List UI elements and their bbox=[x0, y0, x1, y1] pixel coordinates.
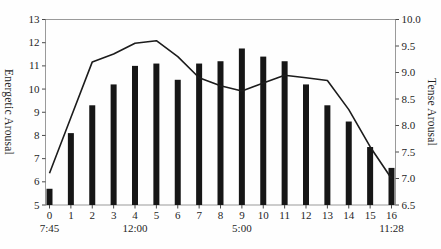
right-axis-tick-label: 10.0 bbox=[402, 13, 422, 25]
x-axis-tick-label: 3 bbox=[111, 209, 117, 221]
x-axis-tick-label: 8 bbox=[218, 209, 224, 221]
energetic-arousal-bar bbox=[175, 80, 181, 205]
left-axis-tick-label: 7 bbox=[34, 152, 40, 164]
x-axis-time-label: 7:45 bbox=[40, 222, 60, 234]
right-axis-tick-label: 7.5 bbox=[402, 146, 416, 158]
energetic-arousal-bar bbox=[89, 105, 95, 205]
left-axis-tick-label: 10 bbox=[29, 83, 41, 95]
x-axis-time-label: 12:00 bbox=[122, 222, 148, 234]
arousal-chart: 56789101112136.57.07.58.08.59.09.510.001… bbox=[0, 0, 441, 249]
right-axis-tick-label: 9.5 bbox=[402, 40, 416, 52]
energetic-arousal-bar bbox=[346, 122, 352, 205]
x-axis-tick-label: 2 bbox=[90, 209, 96, 221]
chart-plot-area: 56789101112136.57.07.58.08.59.09.510.001… bbox=[0, 0, 441, 249]
x-axis-tick-label: 12 bbox=[301, 209, 312, 221]
x-axis-tick-label: 16 bbox=[386, 209, 398, 221]
x-axis-tick-label: 0 bbox=[47, 209, 53, 221]
energetic-arousal-bar bbox=[324, 105, 330, 205]
left-axis-tick-label: 13 bbox=[29, 13, 41, 25]
energetic-arousal-bar bbox=[303, 84, 309, 205]
x-axis-tick-label: 9 bbox=[239, 209, 245, 221]
x-axis-tick-label: 15 bbox=[365, 209, 377, 221]
left-axis-tick-label: 8 bbox=[34, 129, 40, 141]
x-axis-tick-label: 1 bbox=[68, 209, 74, 221]
right-axis-tick-label: 9.0 bbox=[402, 66, 416, 78]
energetic-arousal-bar bbox=[47, 189, 53, 205]
x-axis-tick-label: 13 bbox=[322, 209, 334, 221]
energetic-arousal-bar bbox=[260, 57, 266, 205]
right-axis-tick-label: 7.0 bbox=[402, 172, 416, 184]
energetic-arousal-bar bbox=[68, 133, 74, 205]
x-axis-tick-label: 10 bbox=[258, 209, 270, 221]
left-axis-tick-label: 6 bbox=[34, 175, 40, 187]
energetic-arousal-bar bbox=[239, 48, 245, 205]
right-axis-tick-label: 6.5 bbox=[402, 199, 416, 211]
left-axis-tick-label: 5 bbox=[34, 199, 40, 211]
energetic-arousal-bar bbox=[367, 147, 373, 205]
energetic-arousal-bar bbox=[153, 64, 159, 205]
energetic-arousal-bar bbox=[282, 61, 288, 205]
energetic-arousal-bar bbox=[389, 168, 395, 205]
left-axis-title: Energetic Arousal bbox=[3, 69, 15, 155]
x-axis-time-label: 11:28 bbox=[379, 222, 404, 234]
x-axis-tick-label: 6 bbox=[175, 209, 181, 221]
left-axis-tick-label: 11 bbox=[29, 59, 40, 71]
energetic-arousal-bar bbox=[111, 84, 117, 205]
right-axis-tick-label: 8.5 bbox=[402, 93, 416, 105]
x-axis-tick-label: 7 bbox=[196, 209, 202, 221]
right-axis-tick-label: 8.0 bbox=[402, 119, 416, 131]
x-axis-tick-label: 4 bbox=[132, 209, 138, 221]
x-axis-tick-label: 11 bbox=[279, 209, 290, 221]
energetic-arousal-bar bbox=[218, 61, 224, 205]
x-axis-time-label: 5:00 bbox=[232, 222, 252, 234]
left-axis-tick-label: 9 bbox=[34, 106, 40, 118]
right-axis-title: Tense Arousal bbox=[426, 78, 438, 146]
x-axis-tick-label: 5 bbox=[154, 209, 160, 221]
x-axis-tick-label: 14 bbox=[343, 209, 355, 221]
left-axis-tick-label: 12 bbox=[29, 36, 40, 48]
energetic-arousal-bar bbox=[196, 64, 202, 205]
energetic-arousal-bar bbox=[132, 66, 138, 205]
